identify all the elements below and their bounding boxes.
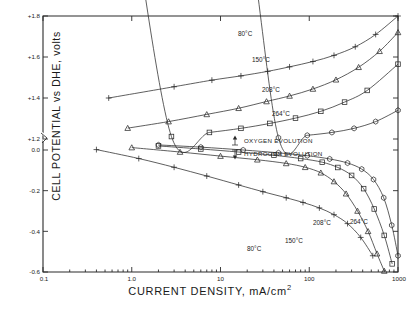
series-markers [205,0,401,140]
series-line [158,146,392,264]
y-axis-tick-label: -0.4 [29,228,40,235]
x-axis-label: CURRENT DENSITY, mA/cm2 [0,283,420,297]
y-axis-tick-label: +1.6 [28,53,41,60]
y-axis-tick-label: -0.6 [29,268,40,275]
legend-item-oxygen-evolution: OXYGEN EVOLUTION [232,136,313,146]
y-axis-tick-label: -0.2 [29,187,40,194]
x-axis-tick-label: 0.1 [40,275,49,282]
plot-frame [43,16,398,272]
arrow-up-icon [233,136,237,140]
series-hydrogen-150C [129,145,387,274]
x-axis-tick-label: 100 [304,275,315,282]
y-axis-label: CELL POTENTIAL vs DHE, volts [50,16,62,216]
series-annotation-oxygen-1: 150°C [252,56,270,63]
series-annotation-oxygen-2: 208°C [262,86,280,93]
series-annotation-hydrogen-6: 208°C [313,219,331,226]
series-annotation-hydrogen-5: 150°C [285,237,303,244]
legend-label: OXYGEN EVOLUTION [244,137,313,144]
y-axis-tick-label: +1.8 [28,12,41,19]
figure-container: 0.11.0101001000+1.8+1.6+1.4+1.20.0-0.2-0… [0,0,420,312]
series-annotation-hydrogen-4: 80°C [247,245,262,252]
series-markers [129,145,387,274]
series-line [132,0,398,153]
x-axis-label-exponent: 2 [287,283,292,292]
series-annotation-oxygen-0: 80°C [238,30,253,37]
series-annotation-hydrogen-7: 264°C [350,218,368,225]
y-axis-tick-label: +1.2 [28,135,41,142]
chart-svg: 0.11.0101001000+1.8+1.6+1.4+1.20.0-0.2-0… [0,0,420,312]
y-axis-tick-label: 0.0 [31,146,40,153]
series-line [96,150,372,256]
legend-label: HYDROGEN EVOLUTION [244,150,323,157]
series-oxygen-208C [129,0,400,153]
y-axis-label-text: CELL POTENTIAL vs DHE, volts [50,31,62,200]
x-axis-label-text: CURRENT DENSITY, mA/cm [128,285,287,297]
x-axis-tick-label: 1.0 [127,275,136,282]
series-hydrogen-80C [94,147,376,259]
series-line [207,0,398,154]
x-axis-tick-label: 10 [217,275,224,282]
x-axis-tick-label: 1000 [392,275,406,282]
y-axis-tick-label: +1.4 [28,94,41,101]
series-markers [94,147,376,259]
legend-item-hydrogen-evolution: HYDROGEN EVOLUTION [232,150,323,160]
series-annotation-oxygen-3: 264°C [272,110,290,117]
